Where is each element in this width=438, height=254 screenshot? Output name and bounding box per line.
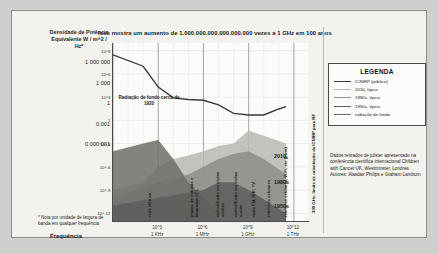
y-tick-label: 10^3	[101, 95, 110, 100]
x-tick-label: 10^121 THz	[287, 224, 299, 238]
x-tick-label: 10^31 KHz	[151, 224, 164, 238]
legend-item-label: radiação de fundo	[355, 112, 390, 117]
legend-item[interactable]: 1950s, típico	[334, 104, 420, 109]
y-plain-value: 1 000	[30, 80, 110, 101]
legend-swatch-icon	[334, 89, 351, 90]
x-tick-unit: 1 THz	[287, 232, 299, 237]
infographic-card: Densidade de Potência Equivalente W / m^…	[11, 10, 427, 238]
y-tick-label: 1	[108, 118, 110, 123]
screenshot-root: Densidade de Potência Equivalente W / m^…	[0, 0, 438, 254]
y-tick-label: 10^-9	[100, 188, 111, 193]
band-label: rádio FM, VHF, TV	[252, 169, 257, 217]
x-tick-label: 10^91 GHz	[241, 224, 254, 238]
y-plain-value: 0.000 001	[30, 141, 110, 162]
decade-label: 1950s	[274, 203, 289, 209]
y-tick-label: 10^9	[101, 48, 110, 53]
x-tick-exp: 10^9	[243, 225, 253, 230]
x-tick-unit: 1 MHz	[196, 232, 209, 237]
x-tick-unit: 1 KHz	[151, 232, 164, 237]
x-tick-exp: 10^6	[198, 225, 208, 230]
y-plain-value: 1 000 000	[30, 59, 110, 80]
band-label: rede elétrica	[148, 187, 153, 217]
band-label: placas de indução e lâmpadas CFL	[190, 161, 199, 217]
legend-item-label: 1950s, típico	[355, 104, 380, 109]
band-label: telefones celulares	[267, 161, 272, 217]
x-tick-label: 10^61 MHz	[196, 224, 209, 238]
x-tick-exp: 10^3	[152, 225, 162, 230]
legend-item[interactable]: ICNIRP (público)	[334, 79, 420, 84]
legend-item-label: ICNIRP (público)	[355, 79, 388, 84]
background-radiation-annotation: Radiação de fundo cerca de 1920	[118, 95, 180, 107]
y-axis-plain-values: 1 000 000 1 000 1 0.001 0.000 001	[30, 59, 110, 162]
source-note: Dados retirados de pôster apresentado na…	[330, 153, 428, 179]
decade-label: 2010	[274, 153, 286, 159]
legend-rows: ICNIRP (público)2010, típico1980s, típic…	[334, 79, 420, 117]
legend-swatch-icon	[334, 114, 351, 115]
legend-item-label: 1980s, típico	[355, 95, 380, 100]
legend-swatch-icon	[334, 106, 351, 107]
decade-label: 1980s	[274, 179, 289, 185]
band-label: radiodifusão em ondas curtas	[234, 166, 243, 217]
y-plain-value: 1	[30, 100, 110, 121]
x-tick-unit: 1 GHz	[241, 232, 254, 237]
chart-title: Isso mostra um aumento de 1.000.000.000.…	[98, 30, 418, 36]
legend-swatch-icon	[334, 81, 351, 82]
y-tick-label: 10^6	[101, 71, 110, 76]
legend-item-label: 2010, típico	[355, 87, 378, 92]
x-tick-exp: 10^12	[287, 225, 299, 230]
legend-item[interactable]: radiação de fundo	[334, 112, 420, 117]
legend-item[interactable]: 1980s, típico	[334, 95, 420, 100]
plot-wrapper: 10^910^610^3110^-310^-610^-910^-12 10^31…	[112, 43, 308, 221]
x-axis-title: Frequência	[50, 233, 82, 239]
y-plain-value: 0.001	[30, 121, 110, 142]
legend-swatch-icon	[334, 97, 351, 98]
legend-title: LEGENDA	[334, 68, 420, 75]
icnirp-limit-vertical-label: 300 GHz: limite de orientação da ICNIRP …	[311, 53, 316, 213]
legend-box: LEGENDA ICNIRP (público)2010, típico1980…	[328, 63, 426, 126]
y-tick-label: 10^-6	[100, 164, 111, 169]
y-tick-label: 10^-3	[100, 141, 111, 146]
legend-item[interactable]: 2010, típico	[334, 87, 420, 92]
column-divider	[323, 27, 324, 233]
chart-svg	[113, 43, 309, 221]
band-label: radiodifusão em ondas médias	[216, 166, 225, 217]
plot-area	[112, 43, 309, 222]
footnote: * Nota por unidade de largura de banda e…	[38, 215, 110, 227]
